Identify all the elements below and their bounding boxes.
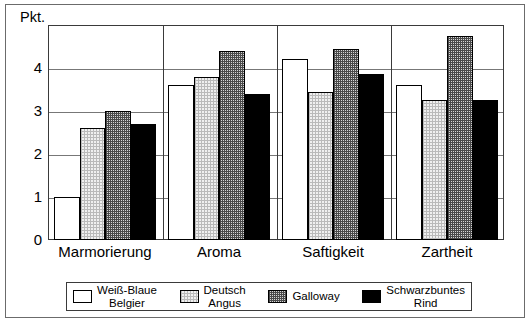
bar-1-3 bbox=[105, 111, 131, 240]
legend-label-2: Deutsch Angus bbox=[204, 284, 246, 308]
bar-1-2 bbox=[80, 128, 106, 240]
y-axis-tick-2: 2 bbox=[2, 146, 42, 161]
x-axis-label-4: Zartheit bbox=[422, 243, 473, 260]
bar-2-1 bbox=[168, 85, 194, 240]
bars-layer bbox=[48, 25, 504, 240]
legend-label-3: Galloway bbox=[292, 290, 339, 302]
legend-swatch-icon-2 bbox=[180, 290, 199, 303]
legend-label-1: Weiß-Blaue Belgier bbox=[97, 284, 157, 308]
bar-2-4 bbox=[245, 94, 271, 240]
chart-figure: Pkt. 43210 MarmorierungAromaSaftigkeitZa… bbox=[0, 0, 531, 324]
y-axis-tick-4: 4 bbox=[2, 60, 42, 75]
x-axis-label-2: Aroma bbox=[197, 243, 241, 260]
y-axis-tick-3: 3 bbox=[2, 103, 42, 118]
legend-item-4[interactable]: Schwarzbuntes Rind bbox=[362, 284, 465, 308]
legend: Weiß-Blaue BelgierDeutsch AngusGallowayS… bbox=[66, 282, 472, 311]
y-axis-tick-0: 0 bbox=[2, 232, 42, 247]
legend-item-3[interactable]: Galloway bbox=[268, 290, 339, 303]
legend-item-2[interactable]: Deutsch Angus bbox=[180, 284, 246, 308]
bar-3-4 bbox=[359, 74, 385, 240]
x-axis-label-1: Marmorierung bbox=[58, 243, 151, 260]
bar-4-2 bbox=[422, 100, 448, 240]
bar-4-4 bbox=[473, 100, 499, 240]
legend-swatch-icon-3 bbox=[268, 290, 287, 303]
bar-1-4 bbox=[131, 124, 157, 240]
bar-2-2 bbox=[194, 77, 220, 240]
bar-3-1 bbox=[282, 59, 308, 240]
y-axis-tick-1: 1 bbox=[2, 189, 42, 204]
bar-4-1 bbox=[396, 85, 422, 240]
bar-1-1 bbox=[54, 197, 80, 240]
bar-3-2 bbox=[308, 92, 334, 240]
bar-4-3 bbox=[447, 36, 473, 240]
bar-2-3 bbox=[219, 51, 245, 240]
bar-3-3 bbox=[333, 49, 359, 240]
y-axis-unit-label: Pkt. bbox=[20, 9, 45, 25]
legend-swatch-icon-4 bbox=[362, 290, 381, 303]
legend-swatch-icon-1 bbox=[73, 290, 92, 303]
legend-label-4: Schwarzbuntes Rind bbox=[386, 284, 465, 308]
legend-item-1[interactable]: Weiß-Blaue Belgier bbox=[73, 284, 157, 308]
x-axis-category-labels: MarmorierungAromaSaftigkeitZartheit bbox=[48, 243, 504, 265]
x-axis-label-3: Saftigkeit bbox=[302, 243, 364, 260]
